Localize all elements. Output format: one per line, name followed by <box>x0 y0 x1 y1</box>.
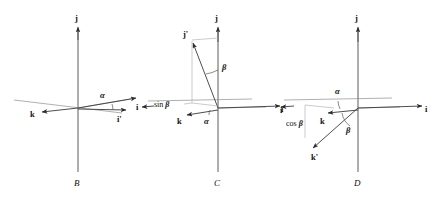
caption-d: D <box>353 178 361 188</box>
label-sin-beta: sin β <box>154 100 170 109</box>
panel-b: j k i i' α B <box>0 0 146 199</box>
vector-k-prime <box>313 108 358 148</box>
label-beta: β <box>221 62 227 72</box>
label-k: k <box>177 116 182 126</box>
label-k-prime: k' <box>311 152 318 162</box>
arc-alpha <box>209 110 210 115</box>
proj-top-horizontal <box>192 38 218 40</box>
vector-k <box>42 108 78 112</box>
cos-beta-prefix: cos <box>286 119 299 128</box>
panel-c: j i k j' sin β β α C <box>140 0 290 199</box>
proj-horizontal-cos <box>305 105 334 108</box>
vector-k <box>187 110 218 115</box>
line-left-axis <box>284 98 392 100</box>
label-k: k <box>30 109 35 119</box>
cos-beta-symbol: β <box>298 119 304 128</box>
label-alpha: α <box>100 90 105 100</box>
vector-i-left <box>142 106 154 107</box>
label-i: i <box>136 102 139 112</box>
panel-d: j i i k k' cos β α β D <box>280 0 440 199</box>
label-i-prime: i' <box>117 114 122 124</box>
sin-beta-symbol: β <box>164 100 170 109</box>
vector-j-prime <box>193 43 218 108</box>
caption-b: B <box>74 178 80 188</box>
label-alpha: α <box>335 86 340 96</box>
label-k: k <box>320 116 325 126</box>
label-j-prime: j' <box>182 29 188 39</box>
label-j: j <box>214 13 218 23</box>
figure-root: j k i i' α B j i <box>0 0 440 199</box>
label-j: j <box>354 13 358 23</box>
label-j: j <box>74 13 78 23</box>
proj-bottom-horizontal <box>192 103 218 106</box>
arc-alpha <box>338 101 340 109</box>
leader-sin-beta <box>184 103 192 104</box>
label-beta: β <box>345 125 351 135</box>
arc-alpha <box>112 104 113 110</box>
sin-beta-prefix: sin <box>154 100 165 109</box>
vector-i-left <box>281 106 294 107</box>
label-alpha: α <box>204 116 209 126</box>
caption-c: C <box>214 178 221 188</box>
vector-i-prime <box>78 109 126 110</box>
arc-beta <box>206 70 218 74</box>
vector-i-right <box>358 106 422 108</box>
label-cos-beta: cos β <box>286 119 304 128</box>
label-i-right: i <box>425 104 428 114</box>
vector-i <box>78 98 136 108</box>
